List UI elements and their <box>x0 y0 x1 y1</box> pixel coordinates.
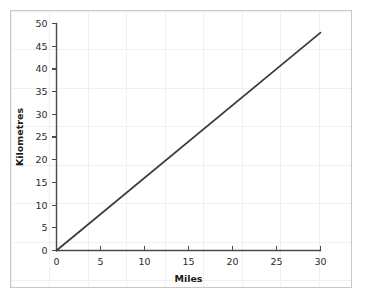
x-tick-label: 25 <box>270 256 282 267</box>
y-tick-label: 0 <box>41 245 47 256</box>
y-tick-label: 25 <box>35 131 47 142</box>
x-tick-label: 20 <box>226 256 238 267</box>
x-tick-label: 0 <box>53 256 59 267</box>
y-tick-label: 15 <box>35 177 47 188</box>
x-tick-label: 30 <box>314 256 326 267</box>
y-tick-label: 40 <box>35 63 47 74</box>
conversion-graph: 051015202530 05101520253035404550 Miles … <box>0 0 367 300</box>
y-tick-label: 5 <box>41 222 47 233</box>
x-tick-label: 15 <box>182 256 194 267</box>
x-axis-title: Miles <box>174 273 202 284</box>
y-tick-label: 35 <box>35 86 47 97</box>
y-tick-label: 10 <box>35 200 47 211</box>
y-tick-label: 30 <box>35 109 47 120</box>
x-tick-label: 10 <box>138 256 150 267</box>
x-tick-label: 5 <box>97 256 103 267</box>
y-tick-label: 20 <box>35 154 47 165</box>
y-tick-label: 50 <box>35 18 47 29</box>
chart-canvas: 051015202530 05101520253035404550 Miles … <box>0 0 367 300</box>
y-tick-label: 45 <box>35 41 47 52</box>
y-axis-title: Kilometres <box>14 108 25 166</box>
